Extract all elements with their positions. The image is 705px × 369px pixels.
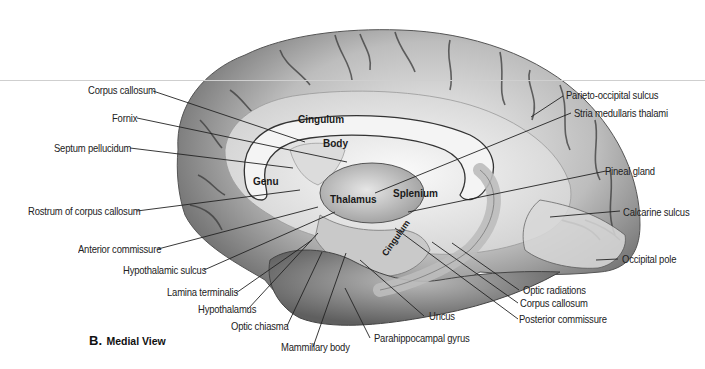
label-fornix: Fornix [112,112,137,124]
label-stria-medullaris-thalami: Stria medullaris thalami [574,107,668,119]
label-corpus-callosum: Corpus callosum [88,84,156,96]
label-cingulum-top: Cingulum [298,114,344,125]
label-body: Body [323,138,348,149]
caption-title: Medial View [106,335,165,347]
label-parieto-occipital-sulcus: Parieto-occipital sulcus [566,89,658,101]
figure-caption: B. Medial View [89,331,166,349]
label-posterior-commissure: Posterior commissure [519,313,607,325]
label-occipital-pole: Occipital pole [622,253,676,265]
label-thalamus: Thalamus [330,194,377,205]
label-parahippocampal-gyrus: Parahippocampal gyrus [374,332,470,344]
label-genu: Genu [253,176,279,187]
label-hypothalamus: Hypothalamus [198,303,256,315]
label-optic-chiasma: Optic chiasma [231,320,289,332]
label-rostrum-of-corpus-callosum: Rostrum of corpus callosum [28,205,140,217]
label-mammillary-body: Mammillary body [281,341,350,353]
label-lamina-terminalis: Lamina terminalis [167,286,238,298]
caption-letter: B. [89,333,102,348]
label-splenium: Splenium [393,188,438,199]
label-optic-radiations: Optic radiations [523,284,586,296]
label-pineal-gland: Pineal gland [605,165,655,177]
label-uncus: Uncus [429,310,455,322]
medial-brain-figure: Cingulum Body Genu Thalamus Splenium Cin… [0,0,705,369]
top-divider-line [0,80,705,81]
label-septum-pellucidum: Septum pellucidum [54,142,131,154]
label-calcarine-sulcus: Calcarine sulcus [623,206,689,218]
label-corpus-callosum-posterior: Corpus callosum [520,297,588,309]
label-anterior-commissure: Anterior commissure [78,243,161,255]
label-hypothalamic-sulcus: Hypothalamic sulcus [123,264,206,276]
